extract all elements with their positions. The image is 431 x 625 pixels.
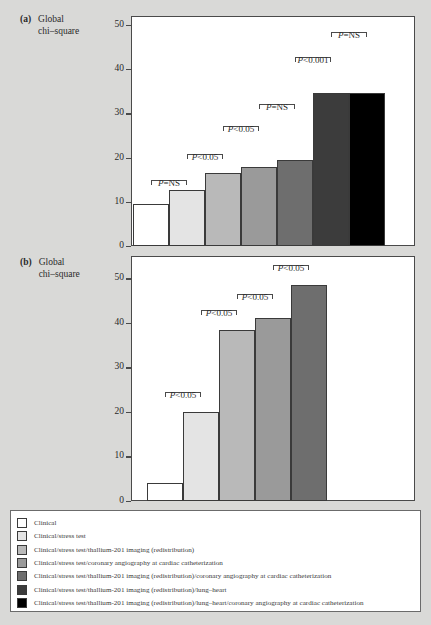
y-axis-tick-label: 20 (115, 407, 125, 417)
y-axis-a: 01020304050 (101, 16, 131, 246)
legend-item: Clinical/stress test/thallium-201 imagin… (17, 597, 364, 609)
significance-label: P<0.001 (298, 55, 329, 66)
y-axis-tick (126, 25, 131, 26)
legend-item: Clinical/stress test/thallium-201 imagin… (17, 570, 331, 582)
y-axis-tick (126, 158, 131, 159)
y-axis-tick (126, 69, 131, 70)
legend-swatch (17, 558, 27, 568)
bar (183, 412, 219, 501)
y-axis-tick (126, 278, 131, 279)
bar (169, 190, 205, 246)
y-axis-tick-label: 40 (115, 64, 125, 74)
y-axis-tick-label: 30 (115, 109, 125, 119)
bar (349, 93, 385, 246)
significance-label: P=NS (158, 178, 180, 189)
legend-swatch (17, 598, 27, 608)
legend-item: Clinical/stress test/thallium-201 imagin… (17, 584, 226, 596)
panel-b-tag: (b) (20, 257, 32, 267)
bar (291, 285, 327, 501)
legend-item-label: Clinical/stress test/thallium-201 imagin… (34, 546, 194, 554)
y-axis-tick-label: 50 (115, 274, 125, 284)
legend-item: Clinical/stress test/thallium-201 imagin… (17, 544, 194, 556)
y-axis-tick-label: 30 (115, 363, 125, 373)
y-axis-tick (126, 501, 131, 502)
significance-label: P=NS (266, 102, 288, 113)
significance-bracket: P<0.05 (201, 310, 237, 324)
y-axis-tick (126, 412, 131, 413)
legend-item-label: Clinical/stress test/thallium-201 imagin… (34, 586, 226, 594)
y-axis-tick (126, 113, 131, 114)
figure-canvas: (a)Globalchi–square 01020304050 P=NSP<0.… (0, 0, 431, 625)
significance-label: P<0.05 (242, 292, 268, 303)
y-axis-tick (126, 202, 131, 203)
panel-a-title-line2: chi–square (38, 26, 79, 36)
significance-label: P<0.05 (170, 390, 196, 401)
y-axis-tick (126, 246, 131, 247)
panel-a-tag: (a) (20, 14, 31, 24)
significance-label: P<0.05 (228, 124, 254, 135)
y-axis-tick-label: 40 (115, 318, 125, 328)
bar (133, 204, 169, 246)
legend-item: Clinical (17, 517, 56, 529)
legend-item-label: Clinical/stress test/thallium-201 imagin… (34, 599, 364, 607)
legend-item-label: Clinical/stress test/thallium-201 imagin… (34, 572, 331, 580)
panel-b-title-line1: Global (39, 257, 65, 267)
panel-a-title-line1: Global (38, 14, 64, 24)
legend-swatch (17, 571, 27, 581)
y-axis-tick-label: 0 (119, 241, 124, 251)
legend-item-label: Clinical/stress test (34, 532, 86, 540)
y-axis-tick-label: 50 (115, 20, 125, 30)
panel-b-label: (b)Globalchi–square (20, 256, 80, 280)
significance-label: P<0.05 (206, 308, 232, 319)
bar (147, 483, 183, 501)
significance-bracket: P<0.05 (165, 392, 201, 406)
bar (205, 173, 241, 246)
legend-item: Clinical/stress test (17, 530, 86, 542)
bar (219, 330, 255, 502)
bar (277, 160, 313, 246)
significance-bracket: P<0.05 (237, 294, 273, 308)
y-axis-tick-label: 0 (119, 496, 124, 506)
significance-label: P<0.05 (192, 152, 218, 163)
y-axis-b: 01020304050 (101, 256, 131, 501)
y-axis-tick (126, 367, 131, 368)
y-axis-tick (126, 456, 131, 457)
legend-swatch (17, 545, 27, 555)
significance-label: P<0.05 (278, 263, 304, 274)
legend-item-label: Clinical (34, 519, 56, 527)
significance-bracket: P=NS (151, 180, 187, 194)
bar (241, 167, 277, 246)
significance-bracket: P<0.05 (223, 126, 259, 140)
legend-swatch (17, 585, 27, 595)
y-axis-tick (126, 323, 131, 324)
y-axis-tick-label: 20 (115, 153, 125, 163)
legend: ClinicalClinical/stress testClinical/str… (10, 510, 421, 612)
legend-item: Clinical/stress test/coronary angiograph… (17, 557, 223, 569)
significance-bracket: P<0.05 (273, 265, 309, 279)
y-axis-tick-label: 10 (115, 197, 125, 207)
y-axis-tick-label: 10 (115, 452, 125, 462)
panel-a-label: (a)Globalchi–square (20, 13, 79, 37)
legend-item-label: Clinical/stress test/coronary angiograph… (34, 559, 223, 567)
bar (313, 93, 349, 246)
panel-b-title-line2: chi–square (39, 269, 80, 279)
significance-label: P=NS (338, 30, 360, 41)
significance-bracket: P=NS (259, 104, 295, 118)
legend-swatch (17, 518, 27, 528)
significance-bracket: P<0.001 (295, 57, 331, 71)
significance-bracket: P=NS (331, 32, 367, 46)
significance-bracket: P<0.05 (187, 154, 223, 168)
legend-swatch (17, 531, 27, 541)
bar (255, 318, 291, 501)
